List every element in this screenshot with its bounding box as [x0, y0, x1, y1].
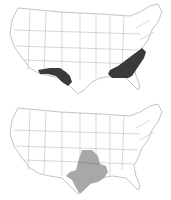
- us-map-bottom: [0, 100, 171, 200]
- us-map-top-svg: [0, 0, 171, 100]
- us-map-top: [0, 0, 171, 100]
- us-outline: [10, 4, 162, 94]
- us-map-bottom-svg: [0, 100, 171, 200]
